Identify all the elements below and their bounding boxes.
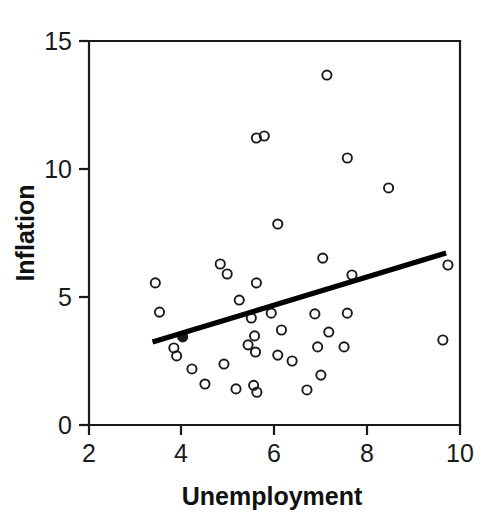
y-tick-label-0: 0 [58,411,72,439]
data-point [339,342,348,351]
data-point [343,309,352,318]
data-point [219,359,228,368]
data-point [251,347,260,356]
data-point [267,309,276,318]
data-point [216,259,225,268]
x-tick-label-6: 6 [267,439,281,467]
y-axis-tick-labels: 0 5 10 15 [44,27,72,439]
x-axis-ticks [89,425,460,435]
data-point [438,335,447,344]
x-tick-label-4: 4 [174,439,188,467]
data-points-layer [151,70,453,396]
data-point [200,379,209,388]
data-point [316,370,325,379]
x-axis-title: Unemployment [182,482,363,510]
data-point [273,219,282,228]
trend-line [153,253,447,342]
data-point [343,153,352,162]
data-point [235,295,244,304]
data-point [324,327,333,336]
y-axis-ticks [79,41,89,425]
data-point [252,278,261,287]
y-tick-label-5: 5 [58,283,72,311]
data-point [310,309,319,318]
x-tick-label-8: 8 [360,439,374,467]
data-point [187,364,196,373]
data-point [384,183,393,192]
data-point [322,70,331,79]
data-point [223,269,232,278]
data-point [273,351,282,360]
data-point [318,253,327,262]
x-axis-tick-labels: 2 4 6 8 10 [82,439,474,467]
data-point [231,384,240,393]
data-point [250,331,259,340]
y-axis-title: Inflation [11,184,39,281]
data-point [288,356,297,365]
axes-group [89,41,460,425]
data-point [443,260,452,269]
trend-line-layer [153,253,447,342]
plot-canvas: 0 5 10 15 2 4 6 8 10 Unemployment Inflat… [0,0,491,518]
data-point [313,342,322,351]
data-point [151,278,160,287]
x-tick-label-10: 10 [446,439,474,467]
data-point [302,385,311,394]
y-tick-label-10: 10 [44,155,72,183]
y-tick-label-15: 15 [44,27,72,55]
data-point [155,308,164,317]
data-point [243,340,252,349]
data-point [277,325,286,334]
scatter-plot-figure: 0 5 10 15 2 4 6 8 10 Unemployment Inflat… [0,0,491,518]
x-tick-label-2: 2 [82,439,96,467]
